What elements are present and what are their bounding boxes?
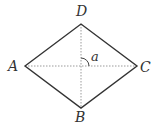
angle-marker	[81, 58, 89, 66]
vertex-label-d: D	[75, 3, 87, 19]
vertex-label-c: C	[140, 59, 151, 75]
rhombus-diagram: D A C B a	[0, 0, 156, 127]
vertex-label-b: B	[74, 109, 85, 125]
diagonals	[25, 24, 137, 108]
angle-label-a: a	[91, 49, 99, 64]
vertex-label-a: A	[6, 58, 18, 74]
